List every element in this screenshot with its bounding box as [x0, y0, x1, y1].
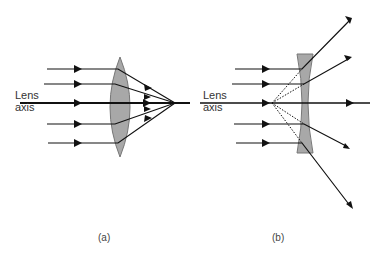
label-line1: Lens [15, 89, 39, 101]
caption-b: (b) [272, 232, 284, 243]
label-line1: Lens [203, 89, 227, 101]
caption-a: (a) [98, 232, 110, 243]
diagram-canvas [0, 0, 381, 254]
panel-a-convex [20, 57, 190, 157]
virtual-rays-b [272, 69, 304, 143]
incident-rays-a [44, 69, 175, 143]
lens-axis-label-a: Lens axis [15, 89, 39, 113]
label-line2: axis [203, 101, 227, 113]
lens-axis-label-b: Lens axis [203, 89, 227, 113]
lens-diagram: Lens axis Lens axis (a) (b) [0, 0, 381, 254]
rays-b [232, 20, 351, 207]
label-line2: axis [15, 101, 39, 113]
